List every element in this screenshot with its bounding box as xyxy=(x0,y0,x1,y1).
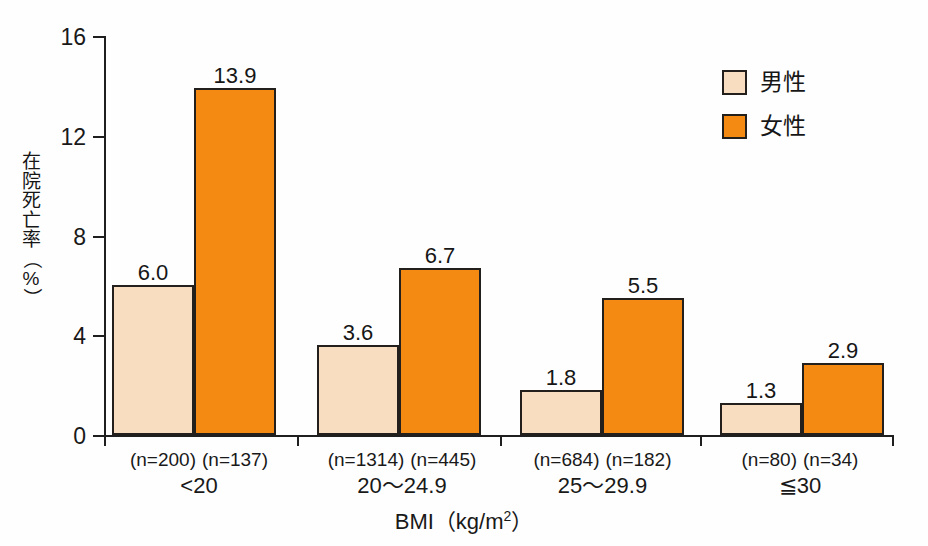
n-label-female-group-2: (n=445) xyxy=(410,449,476,471)
x-axis-title-tail: ） xyxy=(511,509,533,534)
bar-male-group-4: 1.3 xyxy=(720,403,802,435)
bar-value-female-group-1: 13.9 xyxy=(214,65,257,87)
bar-value-male-group-1: 6.0 xyxy=(138,262,169,284)
y-axis-title-paren-open: （ xyxy=(22,246,41,272)
y-tick-16: 16 xyxy=(93,36,104,38)
bar-value-female-group-3: 5.5 xyxy=(628,275,659,297)
bar-chart-figure: 在 院 死 亡 率 （ % ） 16 12 8 4 0 6.0 xyxy=(0,0,928,546)
x-tick-1 xyxy=(297,437,299,446)
group-4-range: ≦30 xyxy=(705,473,895,498)
legend-item-male: 男性 xyxy=(722,70,806,95)
y-axis-title: 在 院 死 亡 率 （ % ） xyxy=(18,152,44,307)
group-3-n-row: (n=684) (n=182) xyxy=(505,449,700,471)
legend-item-female: 女性 xyxy=(722,114,806,139)
y-tick-12: 12 xyxy=(93,136,104,138)
bar-male-group-3: 1.8 xyxy=(520,390,602,435)
group-label-4: (n=80) (n=34) ≦30 xyxy=(705,449,895,498)
x-axis-line xyxy=(104,435,894,437)
x-tick-3 xyxy=(700,437,702,446)
n-label-female-group-1: (n=137) xyxy=(202,449,268,471)
bar-female-group-4: 2.9 xyxy=(802,363,884,435)
y-tick-label-12: 12 xyxy=(60,125,86,148)
n-label-male-group-4: (n=80) xyxy=(742,449,797,471)
x-tick-2 xyxy=(500,437,502,446)
y-axis-title-char-0: 在 xyxy=(18,152,44,172)
group-1-n-row: (n=200) (n=137) xyxy=(104,449,294,471)
legend-label-female: 女性 xyxy=(760,115,806,138)
x-axis-title: BMI（kg/m2） xyxy=(0,503,928,535)
group-label-3: (n=684) (n=182) 25〜29.9 xyxy=(505,449,700,498)
bar-female-group-2: 6.7 xyxy=(399,268,481,435)
legend: 男性 女性 xyxy=(722,70,806,158)
n-label-male-group-3: (n=684) xyxy=(533,449,599,471)
x-tick-4 xyxy=(892,437,894,446)
group-2-range: 20〜24.9 xyxy=(302,473,502,498)
group-label-2: (n=1314) (n=445) 20〜24.9 xyxy=(302,449,502,498)
group-1-range: <20 xyxy=(104,473,294,498)
legend-swatch-male-icon xyxy=(722,70,747,95)
y-tick-label-16: 16 xyxy=(60,26,86,49)
bar-female-group-1: 13.9 xyxy=(194,88,276,435)
y-tick-0: 0 xyxy=(93,435,104,437)
bar-value-female-group-2: 6.7 xyxy=(425,245,456,267)
bar-value-male-group-2: 3.6 xyxy=(343,322,374,344)
n-label-male-group-2: (n=1314) xyxy=(328,449,405,471)
group-4-n-row: (n=80) (n=34) xyxy=(705,449,895,471)
bar-male-group-1: 6.0 xyxy=(112,285,194,435)
bar-value-female-group-4: 2.9 xyxy=(828,340,859,362)
legend-label-male: 男性 xyxy=(760,71,806,94)
y-tick-4: 4 xyxy=(93,335,104,337)
x-axis-title-main: BMI（kg/m xyxy=(395,509,504,534)
y-axis-title-char-2: 死 xyxy=(18,191,44,211)
bar-male-group-2: 3.6 xyxy=(317,345,399,435)
group-label-1: (n=200) (n=137) <20 xyxy=(104,449,294,498)
legend-swatch-female-icon xyxy=(722,114,747,139)
y-tick-label-4: 4 xyxy=(73,325,86,348)
n-label-male-group-1: (n=200) xyxy=(130,449,196,471)
bar-female-group-3: 5.5 xyxy=(602,298,684,435)
y-tick-label-0: 0 xyxy=(73,425,86,448)
y-tick-label-8: 8 xyxy=(73,225,86,248)
bar-value-male-group-3: 1.8 xyxy=(546,367,577,389)
group-2-n-row: (n=1314) (n=445) xyxy=(302,449,502,471)
n-label-female-group-4: (n=34) xyxy=(803,449,858,471)
group-3-range: 25〜29.9 xyxy=(505,473,700,498)
y-axis-title-paren-close: ） xyxy=(22,285,41,311)
x-tick-0 xyxy=(104,437,106,446)
n-label-female-group-3: (n=182) xyxy=(606,449,672,471)
bar-value-male-group-4: 1.3 xyxy=(746,380,777,402)
y-tick-8: 8 xyxy=(93,236,104,238)
